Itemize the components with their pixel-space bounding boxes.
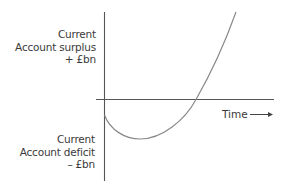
deficit-label-line-1: Current [20, 133, 95, 146]
surplus-label-line-3: + £bn [15, 53, 96, 66]
time-axis-label: Time [222, 108, 248, 120]
j-curve-line [105, 12, 237, 139]
surplus-label-line-2: Account surplus [15, 41, 96, 54]
deficit-label-line-3: – £bn [20, 158, 95, 171]
deficit-axis-label: Current Account deficit – £bn [20, 133, 95, 171]
surplus-label-line-1: Current [15, 28, 96, 41]
surplus-axis-label: Current Account surplus + £bn [15, 28, 96, 66]
time-arrow-icon [268, 112, 273, 117]
deficit-label-line-2: Account deficit [20, 146, 95, 159]
